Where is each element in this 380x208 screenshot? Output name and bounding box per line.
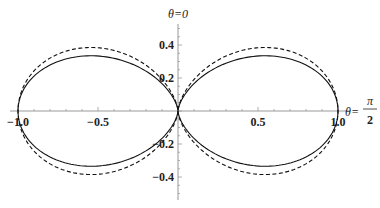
- svg-text:π: π: [367, 94, 374, 108]
- x-tick-label: −0.5: [87, 115, 109, 129]
- svg-text:2: 2: [367, 113, 373, 127]
- y-tick-label: 0.4: [159, 38, 174, 52]
- polar-pattern-chart: −1.0−0.50.51.0 0.40.2−0.2−0.4 θ=0 θ= π 2: [0, 0, 380, 208]
- y-tick-label: −0.4: [152, 170, 174, 184]
- y-axis-title: θ=0: [168, 7, 188, 21]
- x-axis-title: θ= π 2: [345, 94, 377, 127]
- x-tick-label: 0.5: [251, 115, 266, 129]
- svg-text:θ=: θ=: [345, 105, 359, 119]
